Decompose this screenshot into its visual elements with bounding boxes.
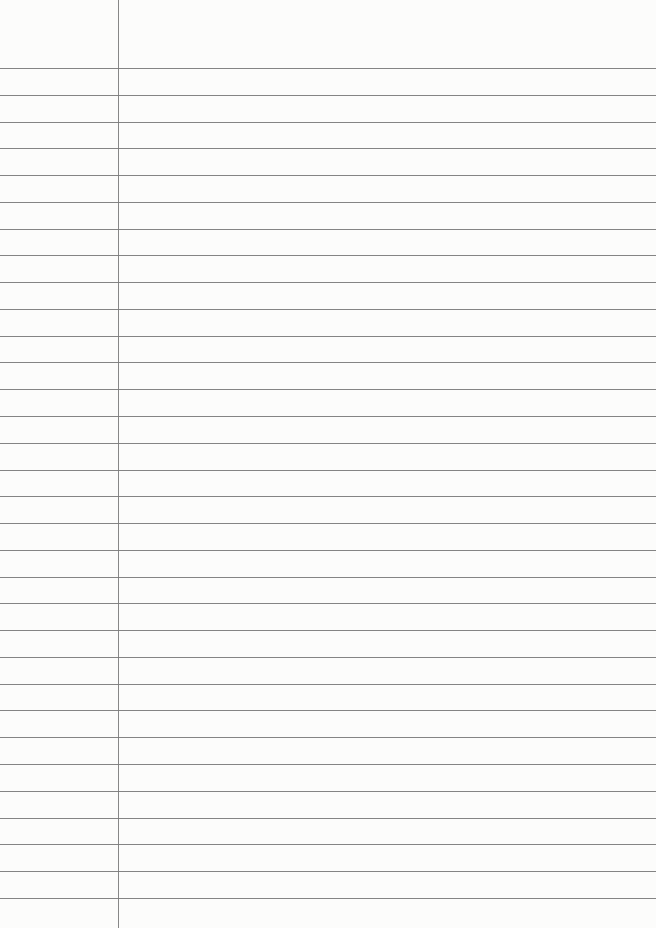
ruled-line [0,122,656,123]
ruled-line [0,710,656,711]
ruled-line [0,496,656,497]
ruled-line [0,818,656,819]
ruled-line [0,389,656,390]
ruled-line [0,95,656,96]
ruled-line [0,362,656,363]
ruled-line [0,416,656,417]
ruled-line [0,684,656,685]
ruled-line [0,282,656,283]
ruled-line [0,791,656,792]
ruled-line [0,657,656,658]
ruled-line [0,148,656,149]
lined-paper-sheet [0,0,656,928]
ruled-line [0,737,656,738]
ruled-line [0,255,656,256]
ruled-line [0,523,656,524]
ruled-line [0,68,656,69]
ruled-line [0,470,656,471]
margin-line [118,0,119,928]
ruled-line [0,603,656,604]
ruled-line [0,871,656,872]
ruled-line [0,309,656,310]
ruled-line [0,202,656,203]
ruled-line [0,443,656,444]
ruled-line [0,844,656,845]
ruled-line [0,630,656,631]
ruled-line [0,229,656,230]
ruled-line [0,550,656,551]
ruled-line [0,175,656,176]
ruled-line [0,764,656,765]
ruled-line [0,336,656,337]
ruled-line [0,898,656,899]
ruled-line [0,577,656,578]
